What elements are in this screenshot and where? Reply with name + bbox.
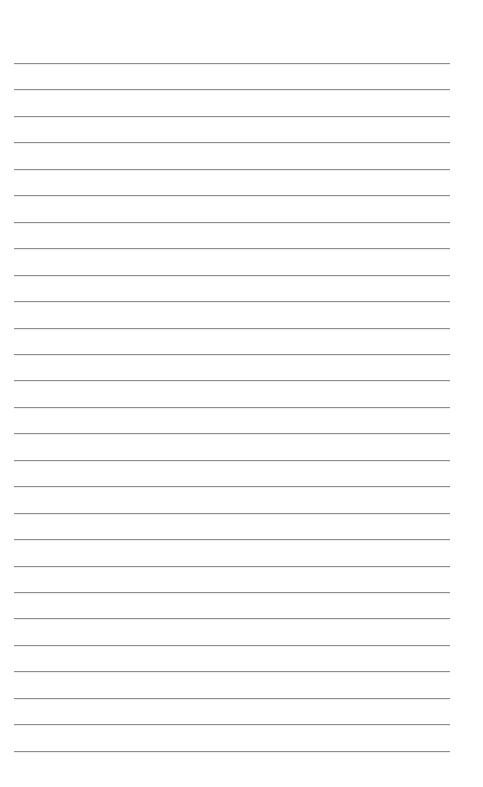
ruled-line [14,195,450,196]
ruled-line [14,407,450,408]
ruled-line [14,116,450,117]
ruled-line [14,248,450,249]
ruled-line [14,63,450,64]
ruled-line [14,698,450,699]
ruled-line [14,142,450,143]
ruled-line [14,460,450,461]
ruled-line [14,433,450,434]
ruled-line [14,275,450,276]
ruled-line [14,539,450,540]
ruled-line [14,301,450,302]
lined-paper-sheet [0,0,483,787]
ruled-line [14,671,450,672]
ruled-line [14,354,450,355]
ruled-line [14,645,450,646]
ruled-line [14,592,450,593]
ruled-line [14,751,450,752]
ruled-line [14,89,450,90]
ruled-line [14,222,450,223]
ruled-line [14,724,450,725]
ruled-line [14,486,450,487]
ruled-line [14,169,450,170]
ruled-line [14,380,450,381]
ruled-line [14,328,450,329]
ruled-line [14,566,450,567]
ruled-line [14,513,450,514]
ruled-line [14,618,450,619]
